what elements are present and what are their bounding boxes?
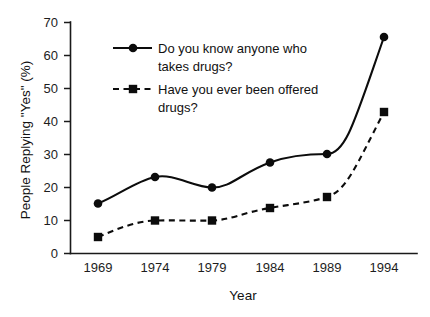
line-chart: 70 60 50 40 30 20 10 0 1969 1974 1979 19… [0, 0, 430, 317]
data-point-marker [151, 173, 160, 182]
series-line-offered-drugs [98, 112, 384, 237]
series-markers-know-anyone [94, 33, 389, 208]
legend-label-line2: takes drugs? [158, 59, 232, 74]
filled-circle-marker [129, 44, 138, 53]
y-tick-label: 40 [44, 114, 58, 129]
data-point-marker [94, 233, 102, 241]
y-tick-label: 70 [44, 15, 58, 30]
data-point-marker [323, 193, 331, 201]
y-tick-label: 20 [44, 180, 58, 195]
data-point-marker [151, 216, 159, 224]
data-point-marker [266, 158, 275, 167]
y-tick-marks [64, 23, 71, 254]
x-tick-label: 1994 [370, 260, 399, 275]
y-tick-label: 60 [44, 48, 58, 63]
series-line-know-anyone [98, 37, 384, 204]
chart-container: 70 60 50 40 30 20 10 0 1969 1974 1979 19… [0, 0, 430, 317]
x-axis-title: Year [229, 288, 257, 303]
series-markers-offered-drugs [94, 108, 388, 241]
x-tick-label: 1989 [313, 260, 342, 275]
y-tick-label: 10 [44, 213, 58, 228]
data-point-marker [380, 108, 388, 116]
data-point-marker [266, 204, 274, 212]
x-tick-label: 1984 [256, 260, 285, 275]
y-tick-labels: 70 60 50 40 30 20 10 0 [44, 15, 58, 261]
data-point-marker [208, 183, 217, 192]
x-tick-label: 1969 [84, 260, 113, 275]
legend-entry-offered-drugs: Have you ever been offered drugs? [113, 82, 318, 115]
y-tick-label: 30 [44, 147, 58, 162]
x-tick-label: 1974 [141, 260, 170, 275]
y-tick-label: 0 [51, 246, 58, 261]
data-point-marker [323, 150, 332, 159]
filled-square-marker [129, 85, 137, 93]
x-tick-labels: 1969 1974 1979 1984 1989 1994 [84, 260, 399, 275]
legend-label-line1: Do you know anyone who [158, 41, 307, 56]
x-tick-label: 1979 [198, 260, 227, 275]
legend-label-line2: drugs? [158, 100, 198, 115]
data-point-marker [94, 199, 103, 208]
legend-entry-know-anyone: Do you know anyone who takes drugs? [113, 41, 307, 74]
legend-label-line1: Have you ever been offered [158, 82, 318, 97]
data-point-marker [208, 216, 216, 224]
data-point-marker [380, 33, 389, 42]
chart-legend: Do you know anyone who takes drugs? Have… [113, 41, 318, 115]
y-tick-label: 50 [44, 81, 58, 96]
y-axis-title: People Replying "Yes" (%) [18, 61, 33, 219]
